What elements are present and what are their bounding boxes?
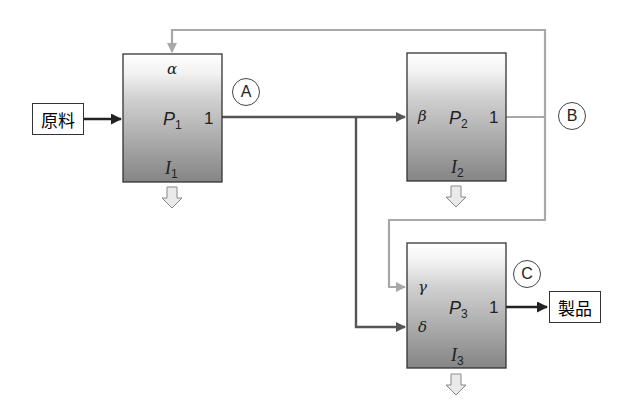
- p3-output-port: 1: [489, 299, 498, 316]
- marker-c: C: [513, 260, 541, 288]
- marker-c-label: C: [521, 265, 533, 283]
- p3-input-delta: δ: [418, 320, 427, 335]
- p3-sub: 3: [461, 307, 468, 321]
- p3-name: P: [449, 298, 461, 318]
- process-flow-diagram: 原料 製品 A B C α P1 1 I1 β P2 1 I2 γ δ P3 1…: [0, 0, 631, 413]
- marker-b-label: B: [567, 107, 578, 125]
- marker-a-label: A: [241, 83, 252, 101]
- flow-line-to-delta: [356, 117, 405, 327]
- p2-output-port: 1: [489, 109, 498, 126]
- p1-inv-sub: 1: [171, 167, 178, 181]
- marker-b: B: [558, 102, 586, 130]
- input-raw-material-box: 原料: [32, 103, 84, 135]
- diagram-canvas: [0, 0, 631, 413]
- input-label: 原料: [41, 107, 75, 132]
- p3-inv-sub: 3: [457, 354, 464, 368]
- p2-input-beta: β: [418, 109, 427, 124]
- waste-arrow-icon-p2: [446, 186, 466, 207]
- output-label: 製品: [558, 295, 592, 320]
- waste-arrow-icon-p3: [446, 374, 466, 395]
- p2-sub: 2: [461, 117, 468, 131]
- p3-process-name: P3: [449, 299, 468, 320]
- p3-inventory: I3: [451, 346, 464, 367]
- marker-a: A: [232, 78, 260, 106]
- output-product-box: 製品: [549, 291, 601, 323]
- p2-name: P: [449, 108, 461, 128]
- p1-sub: 1: [175, 118, 182, 132]
- p3-input-gamma: γ: [418, 280, 427, 295]
- p1-output-port: 1: [204, 110, 213, 127]
- waste-arrow-icon-p1: [162, 187, 182, 208]
- p2-process-name: P2: [449, 109, 468, 130]
- p2-inv-sub: 2: [457, 166, 464, 180]
- p1-process-name: P1: [163, 110, 182, 131]
- p1-input-alpha: α: [167, 62, 177, 77]
- p2-inventory: I2: [451, 158, 464, 179]
- p1-name: P: [163, 109, 175, 129]
- p1-inventory: I1: [165, 159, 178, 180]
